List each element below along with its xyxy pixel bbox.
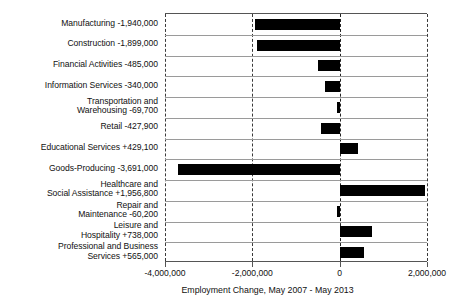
category-label: Manufacturing -1,940,000 — [0, 19, 158, 29]
row-separator — [165, 242, 427, 243]
category-label: Healthcare and Social Assistance +1,956,… — [0, 180, 158, 199]
bar — [318, 60, 339, 71]
zero-axis-line — [340, 14, 341, 261]
category-label-column: Manufacturing -1,940,000Construction -1,… — [0, 13, 162, 262]
row-separator — [165, 97, 427, 98]
row-separator — [165, 76, 427, 77]
gridline-plus-2m — [427, 14, 428, 261]
row-separator — [165, 159, 427, 160]
employment-change-bar-chart: Manufacturing -1,940,000Construction -1,… — [0, 0, 465, 304]
bar — [321, 123, 340, 134]
axis-tick-label: -2,000,000 — [232, 268, 273, 279]
category-label: Professional and Business Services +565,… — [0, 242, 158, 261]
axis-tick-label: 0 — [337, 268, 342, 279]
row-separator — [165, 118, 427, 119]
gridline-minus-2m — [252, 14, 253, 261]
bar — [325, 81, 340, 92]
axis-tick — [252, 262, 253, 267]
category-label: Construction -1,899,000 — [0, 39, 158, 49]
row-separator — [165, 35, 427, 36]
x-axis-title: Employment Change, May 2007 - May 2013 — [0, 285, 465, 295]
plot-area — [165, 13, 427, 262]
row-separator — [165, 222, 427, 223]
axis-tick-label: -4,000,000 — [144, 268, 185, 279]
bar — [340, 226, 372, 237]
bar — [340, 185, 425, 196]
category-label: Repair and Maintenance -60,200 — [0, 201, 158, 220]
bar — [340, 143, 359, 154]
row-separator — [165, 180, 427, 181]
bar — [178, 164, 339, 175]
category-label: Transportation and Warehousing -69,700 — [0, 97, 158, 116]
bar — [340, 247, 365, 258]
axis-tick — [340, 262, 341, 267]
category-label: Goods-Producing -3,691,000 — [0, 164, 158, 174]
category-label: Retail -427,900 — [0, 122, 158, 132]
category-label: Leisure and Hospitality +738,000 — [0, 221, 158, 240]
axis-tick — [427, 262, 428, 267]
x-axis-tick-labels: -4,000,000-2,000,00002,000,000 — [0, 268, 465, 282]
bar — [337, 102, 340, 113]
bar — [337, 206, 340, 217]
row-separator — [165, 56, 427, 57]
axis-tick-label: 2,000,000 — [408, 268, 446, 279]
category-label: Financial Activities -485,000 — [0, 60, 158, 70]
row-separator — [165, 139, 427, 140]
category-label: Information Services -340,000 — [0, 81, 158, 91]
bar — [255, 19, 340, 30]
row-separator — [165, 201, 427, 202]
gridline-minus-4m — [165, 14, 166, 261]
category-label: Educational Services +429,100 — [0, 143, 158, 153]
x-axis-title-text: Employment Change, May 2007 - May 2013 — [181, 285, 353, 295]
axis-tick — [165, 262, 166, 267]
bar — [257, 40, 340, 51]
